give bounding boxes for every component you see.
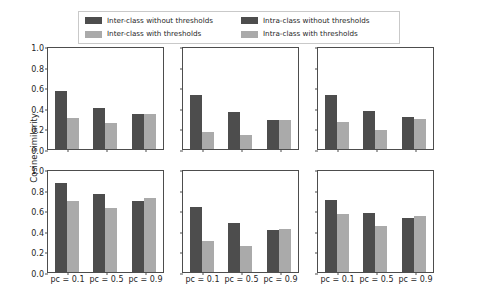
x-tick-mark: [106, 149, 107, 152]
plot-area: [318, 171, 433, 272]
x-tick-mark: [241, 149, 242, 152]
y-tick-mark: [180, 191, 183, 192]
y-tick-mark: [45, 274, 48, 275]
y-tick-mark: [180, 171, 183, 172]
bar: [267, 230, 279, 272]
bar: [93, 194, 105, 272]
chart-legend: Inter-class without thresholds Intra-cla…: [78, 11, 400, 44]
y-tick-mark: [315, 68, 318, 69]
y-tick-mark: [180, 48, 183, 49]
bar: [325, 200, 337, 272]
y-tick-label: 1.0: [31, 167, 44, 176]
y-tick-mark: [180, 232, 183, 233]
bar-group: [402, 171, 426, 272]
bar: [55, 183, 67, 272]
bar: [144, 198, 156, 272]
bar: [402, 218, 414, 272]
x-tick-label: pc = 0.5: [225, 275, 259, 284]
legend-label-intra-without: Intra-class without thresholds: [263, 17, 369, 25]
y-tick-label: 0.8: [31, 187, 44, 196]
bar: [375, 226, 387, 272]
bar: [363, 213, 375, 272]
bar-group: [55, 48, 79, 149]
y-tick-label: 0.8: [31, 64, 44, 73]
bar: [202, 241, 214, 272]
y-tick-label: 0.4: [31, 228, 44, 237]
y-tick-mark: [45, 151, 48, 152]
bar: [337, 214, 349, 272]
bar: [414, 216, 426, 272]
bar-group: [228, 48, 252, 149]
y-tick-label: 1.0: [31, 44, 44, 53]
bar: [93, 108, 105, 149]
bar: [228, 223, 240, 272]
figure: Inter-class without thresholds Intra-cla…: [0, 0, 478, 295]
bar: [325, 95, 337, 149]
bar: [363, 111, 375, 149]
y-tick-mark: [315, 48, 318, 49]
y-tick-label: 0.6: [31, 208, 44, 217]
bar-group: [402, 48, 426, 149]
bar: [337, 122, 349, 149]
subplot-bottom-middle: pc = 0.1pc = 0.5pc = 0.9: [182, 170, 299, 273]
legend-swatch-inter-with: [85, 31, 102, 38]
bar-group: [267, 48, 291, 149]
y-tick-label: 0.0: [31, 270, 44, 279]
x-tick-label: pc = 0.1: [51, 275, 85, 284]
legend-swatch-intra-without: [241, 17, 258, 24]
subplot-top-left: 0.00.20.40.60.81.0: [47, 47, 164, 150]
y-tick-label: 0.0: [31, 147, 44, 156]
x-tick-label: pc = 0.1: [321, 275, 355, 284]
subplot-bottom-right: pc = 0.1pc = 0.5pc = 0.9: [317, 170, 434, 273]
x-tick-label: pc = 0.9: [129, 275, 163, 284]
bar-group: [363, 48, 387, 149]
bar: [105, 123, 117, 149]
legend-label-inter-with: Inter-class with thresholds: [107, 30, 201, 38]
subplot-bottom-left: 0.00.20.40.60.81.0pc = 0.1pc = 0.5pc = 0…: [47, 170, 164, 273]
x-tick-label: pc = 0.9: [264, 275, 298, 284]
bar-group: [325, 48, 349, 149]
y-tick-mark: [45, 89, 48, 90]
bar: [267, 120, 279, 149]
y-tick-mark: [180, 274, 183, 275]
x-tick-label: pc = 0.9: [399, 275, 433, 284]
y-tick-mark: [180, 130, 183, 131]
y-tick-mark: [180, 68, 183, 69]
bar: [240, 135, 252, 149]
y-tick-label: 0.6: [31, 85, 44, 94]
y-tick-mark: [45, 253, 48, 254]
y-tick-mark: [45, 109, 48, 110]
y-tick-mark: [315, 232, 318, 233]
y-tick-mark: [315, 191, 318, 192]
bar-group: [190, 48, 214, 149]
y-tick-mark: [315, 130, 318, 131]
x-tick-mark: [415, 149, 416, 152]
x-tick-mark: [67, 149, 68, 152]
y-tick-mark: [45, 171, 48, 172]
bar-group: [267, 171, 291, 272]
legend-swatch-intra-with: [241, 31, 258, 38]
y-tick-mark: [315, 109, 318, 110]
plot-area: [183, 48, 298, 149]
bar: [279, 229, 291, 272]
y-tick-mark: [180, 109, 183, 110]
legend-swatch-inter-without: [85, 17, 102, 24]
y-tick-mark: [180, 151, 183, 152]
y-tick-mark: [180, 89, 183, 90]
bar: [240, 246, 252, 272]
bar: [402, 117, 414, 149]
y-tick-mark: [45, 68, 48, 69]
x-tick-mark: [280, 149, 281, 152]
bar: [190, 207, 202, 272]
bar-group: [93, 48, 117, 149]
bar-group: [190, 171, 214, 272]
bar: [132, 201, 144, 272]
bar: [105, 208, 117, 272]
x-tick-mark: [337, 149, 338, 152]
x-tick-mark: [376, 149, 377, 152]
bar: [375, 130, 387, 149]
plot-area: [318, 48, 433, 149]
y-tick-mark: [45, 212, 48, 213]
y-tick-mark: [315, 274, 318, 275]
plot-area: [48, 48, 163, 149]
